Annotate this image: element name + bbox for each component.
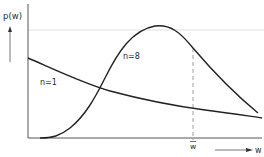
curve-n1 (28, 58, 262, 118)
y-axis-label: p(w) (3, 11, 22, 21)
label-n1: n=1 (40, 78, 57, 87)
curve-n8 (40, 26, 258, 138)
right-arrow-icon (246, 148, 253, 152)
probability-distribution-chart: p(w) n=1 n=8 w w (0, 0, 264, 157)
x-axis-label: w (255, 146, 262, 155)
label-n8: n=8 (123, 52, 140, 61)
up-arrow-icon (8, 26, 12, 32)
w-bar-label: w (190, 142, 196, 151)
